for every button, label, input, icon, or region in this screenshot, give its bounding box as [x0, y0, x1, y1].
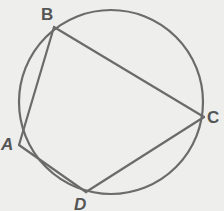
vertex-label-d: D	[74, 195, 86, 211]
inscribed-quadrilateral-diagram: A B C D	[0, 0, 224, 211]
vertex-label-b: B	[41, 5, 53, 24]
vertex-label-c: C	[207, 108, 219, 127]
segment-bc	[54, 27, 204, 117]
segment-da	[19, 145, 86, 192]
diagram-canvas: A B C D	[0, 0, 224, 211]
vertex-labels: A B C D	[0, 5, 219, 211]
circumscribed-circle	[19, 10, 203, 194]
vertex-label-a: A	[0, 135, 13, 154]
segment-ab	[19, 27, 54, 145]
